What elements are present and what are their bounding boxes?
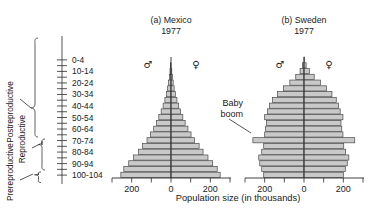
bar-bsweden-female-20-24	[304, 149, 346, 154]
bar-bsweden-female-25-29	[304, 143, 344, 148]
bar-amexico-female-10-14	[171, 161, 213, 166]
bar-bsweden-male-20-24	[262, 149, 304, 154]
bar-bsweden-male-70-74	[277, 92, 304, 97]
bar-amexico-female-55-59	[171, 109, 181, 114]
age-axis-label-60-64: 60-64	[72, 124, 94, 134]
bar-bsweden-male-55-59	[268, 109, 304, 114]
bar-amexico-female-40-44	[171, 126, 188, 131]
panel-year-mexico: 1977	[161, 26, 181, 36]
bar-bsweden-male-75-79	[283, 86, 304, 91]
bar-bsweden-female-5-9	[304, 166, 345, 171]
age-axis-labels: 100-10490-9480-8470-7460-6450-5440-4430-…	[72, 55, 103, 180]
bar-bsweden-female-60-64	[304, 103, 339, 108]
bar-amexico-male-20-24	[139, 149, 171, 154]
bar-amexico-female-25-29	[171, 143, 199, 148]
bar-bsweden-female-30-34	[304, 138, 355, 143]
x-axis-title: Population size (in thousands)	[176, 193, 301, 203]
bar-amexico-male-15-19	[134, 155, 171, 160]
annotation-baby-boom-leader	[229, 119, 251, 133]
bar-bsweden-female-40-44	[304, 126, 342, 131]
bar-amexico-female-0-4	[171, 172, 220, 177]
age-axis-label-50-54: 50-54	[72, 113, 94, 123]
panel-title-mexico: (a) Mexico	[150, 15, 191, 25]
bar-bsweden-male-0-4	[264, 172, 304, 177]
bar-bsweden-male-85-89	[296, 74, 304, 79]
bar-bsweden-female-35-39	[304, 132, 343, 137]
leader-prereproductive	[20, 174, 33, 180]
category-label-reproductive: Reproductive	[18, 114, 27, 163]
bar-bsweden-female-65-69	[304, 97, 336, 102]
bar-bsweden-female-85-89	[304, 74, 314, 79]
bar-bsweden-male-65-69	[273, 97, 304, 102]
annotation-baby-boom-line1: Baby	[222, 98, 243, 108]
bar-amexico-male-25-29	[142, 143, 171, 148]
bracket-reproductive	[39, 139, 46, 170]
bar-bsweden-male-40-44	[266, 126, 304, 131]
bar-bsweden-female-80-84	[304, 80, 321, 85]
x-tick-label-mexico-0: 200	[124, 184, 139, 194]
bar-amexico-male-35-39	[151, 132, 171, 137]
population-pyramid-figure: Postreproductive Reproductive Prereprodu…	[0, 0, 371, 208]
bars-mexico	[121, 63, 220, 178]
bar-bsweden-male-45-49	[267, 120, 304, 125]
bar-bsweden-female-90-94	[304, 69, 309, 74]
bar-bsweden-male-5-9	[262, 166, 304, 171]
bar-bsweden-male-35-39	[265, 132, 304, 137]
bar-bsweden-male-50-54	[265, 115, 304, 120]
bracket-postreproductive	[31, 38, 38, 137]
bar-bsweden-male-30-34	[253, 138, 304, 143]
bar-amexico-female-65-69	[171, 97, 177, 102]
bar-amexico-male-60-64	[163, 103, 171, 108]
bar-bsweden-female-75-79	[304, 86, 327, 91]
panel-title-sweden: (b) Sweden	[282, 15, 327, 25]
bar-amexico-female-35-39	[171, 132, 191, 137]
age-axis-label-0-4: 0-4	[72, 55, 84, 65]
bar-bsweden-male-10-14	[260, 161, 304, 166]
bar-amexico-female-60-64	[171, 103, 179, 108]
bar-amexico-female-45-49	[171, 120, 185, 125]
bar-bsweden-male-90-94	[300, 69, 304, 74]
female-symbol-sweden: ♀	[325, 59, 332, 70]
annotation-baby-boom-line2: boom	[220, 109, 243, 119]
bar-bsweden-female-50-54	[304, 115, 343, 120]
age-axis-ticks	[57, 60, 67, 175]
bar-amexico-male-0-4	[121, 172, 171, 177]
bracket-prereproductive	[35, 172, 42, 183]
age-axis-label-10-14: 10-14	[72, 66, 94, 76]
bar-amexico-male-50-54	[159, 115, 171, 120]
bar-bsweden-female-0-4	[304, 172, 343, 177]
bar-bsweden-female-45-49	[304, 120, 341, 125]
age-axis-label-100-104: 100-104	[72, 170, 103, 180]
bar-amexico-female-20-24	[171, 149, 203, 154]
panel-sweden: (b) Sweden 1977 ♂ ♀ 2000200	[245, 15, 364, 194]
age-axis-label-80-84: 80-84	[72, 147, 94, 157]
bar-amexico-female-30-34	[171, 138, 195, 143]
bar-amexico-male-40-44	[154, 126, 171, 131]
bar-amexico-male-45-49	[156, 120, 171, 125]
x-ticks-mexico	[112, 178, 230, 183]
bar-bsweden-male-25-29	[264, 143, 304, 148]
age-axis-label-20-24: 20-24	[72, 78, 94, 88]
x-ticks-sweden	[245, 178, 363, 183]
bar-bsweden-female-15-19	[304, 155, 349, 160]
bar-amexico-male-65-69	[165, 97, 171, 102]
male-symbol-sweden: ♂	[276, 59, 285, 70]
bar-amexico-male-30-34	[147, 138, 171, 143]
bar-amexico-female-75-79	[171, 86, 174, 91]
category-label-postreproductive: Postreproductive	[6, 81, 15, 143]
leader-postreproductive	[20, 99, 31, 108]
bar-amexico-female-5-9	[171, 166, 217, 171]
bar-bsweden-male-15-19	[259, 155, 304, 160]
x-tick-label-sweden-1: 0	[301, 184, 306, 194]
bar-bsweden-female-10-14	[304, 161, 347, 166]
panel-mexico: (a) Mexico 1977 ♂ ♀ 2000200	[112, 15, 231, 194]
age-axis-label-40-44: 40-44	[72, 101, 94, 111]
age-axis-label-30-34: 30-34	[72, 89, 94, 99]
bar-bsweden-female-70-74	[304, 92, 332, 97]
panel-year-sweden: 1977	[294, 26, 314, 36]
figure-canvas: Postreproductive Reproductive Prereprodu…	[0, 0, 371, 208]
bar-amexico-female-70-74	[171, 92, 175, 97]
bar-amexico-male-70-74	[166, 92, 171, 97]
female-symbol-mexico: ♀	[192, 59, 199, 70]
male-symbol-mexico: ♂	[144, 59, 153, 70]
